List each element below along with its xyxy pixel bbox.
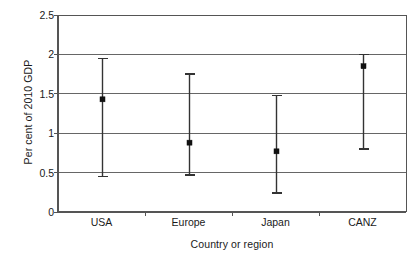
data-point-usa — [100, 97, 105, 102]
chart-figure: Per cent of 2010 GDP 00.511.522.5 USAEur… — [0, 0, 416, 263]
x-tick-label-japan: Japan — [236, 216, 316, 228]
x-axis-title: Country or region — [58, 238, 406, 250]
data-point-europe — [187, 140, 192, 145]
x-tick-label-usa: USA — [62, 216, 142, 228]
data-point-canz — [361, 64, 366, 69]
x-tick-label-europe: Europe — [149, 216, 229, 228]
data-point-japan — [274, 149, 279, 154]
x-tick-label-canz: CANZ — [323, 216, 403, 228]
